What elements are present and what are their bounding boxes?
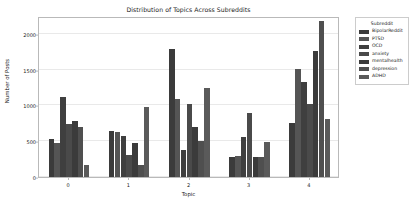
legend-item-depression[interactable]: depression	[359, 66, 405, 73]
x-tick-mark	[128, 178, 129, 180]
y-tick-label: 2000	[2, 32, 36, 38]
bar	[289, 123, 295, 177]
legend-item-label: anxiety	[372, 52, 389, 57]
bar	[84, 165, 90, 177]
x-tick-mark	[189, 178, 190, 180]
legend-swatch-icon	[359, 37, 369, 41]
x-tick-label: 4	[307, 182, 310, 188]
bar	[301, 82, 307, 177]
bar	[187, 104, 193, 177]
x-axis: 01234	[38, 178, 339, 192]
plot-area	[38, 17, 339, 178]
bar	[169, 49, 175, 177]
bar	[307, 104, 313, 177]
legend-swatch-icon	[359, 60, 369, 64]
x-tick-mark	[249, 178, 250, 180]
y-tick-mark	[36, 106, 38, 107]
legend-item-anxiety[interactable]: anxiety	[359, 51, 405, 58]
bar	[181, 150, 187, 177]
legend-item-label: mentalhealth	[372, 59, 403, 64]
legend-item-mentalhealth[interactable]: mentalhealth	[359, 58, 405, 65]
bar	[247, 113, 253, 177]
bar	[319, 21, 325, 177]
bar	[258, 157, 264, 177]
x-axis-label: Topic	[38, 191, 339, 197]
bar	[198, 141, 204, 177]
bar	[60, 97, 66, 177]
legend-item-bipolarreddit[interactable]: BipolarReddit	[359, 28, 405, 35]
legend-item-ptsd[interactable]: PTSD	[359, 36, 405, 43]
bar	[264, 142, 270, 177]
legend-swatch-icon	[359, 75, 369, 79]
bars-layer	[39, 18, 338, 177]
bar	[235, 156, 241, 177]
chart-title: Distribution of Topics Across Subreddits	[38, 6, 339, 13]
x-tick-mark	[309, 178, 310, 180]
legend-title: Subreddit	[359, 21, 405, 26]
bar	[78, 127, 84, 177]
legend-swatch-icon	[359, 52, 369, 56]
x-tick-mark	[68, 178, 69, 180]
legend-item-ocd[interactable]: OCD	[359, 43, 405, 50]
legend-swatch-icon	[359, 45, 369, 49]
legend-item-adhd[interactable]: ADHD	[359, 73, 405, 80]
y-tick-mark	[36, 142, 38, 143]
x-tick-label: 2	[187, 182, 190, 188]
legend-item-label: depression	[372, 67, 397, 72]
bar	[121, 136, 127, 178]
bar	[72, 121, 78, 177]
legend-swatch-icon	[359, 67, 369, 71]
bar	[49, 139, 55, 177]
bar	[204, 88, 210, 177]
legend-swatch-icon	[359, 30, 369, 34]
y-tick-mark	[36, 70, 38, 71]
bar	[132, 143, 138, 177]
bar	[229, 157, 235, 177]
legend-item-label: PTSD	[372, 37, 384, 42]
bar	[109, 131, 115, 178]
bar	[115, 132, 121, 177]
bar	[325, 119, 331, 177]
y-tick-label: 500	[2, 139, 36, 145]
bar	[175, 99, 181, 177]
bar	[313, 51, 319, 177]
legend: Subreddit BipolarRedditPTSDOCDanxietymen…	[355, 17, 409, 85]
legend-item-label: ADHD	[372, 74, 386, 79]
legend-entries: BipolarRedditPTSDOCDanxietymentalhealthd…	[359, 28, 405, 80]
legend-item-label: BipolarReddit	[372, 29, 403, 34]
legend-item-label: OCD	[372, 44, 382, 49]
bar	[241, 137, 247, 177]
bar	[54, 143, 60, 177]
y-axis-label: Number of Posts	[4, 51, 10, 111]
x-tick-label: 3	[247, 182, 250, 188]
x-tick-label: 1	[127, 182, 130, 188]
bar	[144, 107, 150, 177]
y-tick-mark	[36, 34, 38, 35]
bar	[138, 165, 144, 177]
y-tick-label: 0	[2, 175, 36, 181]
bar	[253, 157, 259, 177]
bar	[295, 69, 301, 177]
x-tick-label: 0	[67, 182, 70, 188]
bar	[126, 155, 132, 177]
bar	[66, 124, 72, 177]
bar	[192, 127, 198, 177]
chart-figure: Distribution of Topics Across Subreddits…	[0, 0, 413, 213]
